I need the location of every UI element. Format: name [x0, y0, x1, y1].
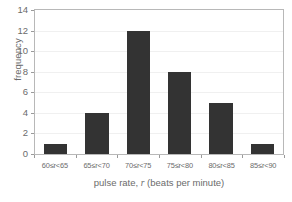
x-axis-tick-mark — [284, 155, 285, 158]
x-axis-title: pulse rate, r (beats per minute) — [34, 177, 284, 188]
x-axis-tick-label: 65≤r<70 — [76, 161, 118, 170]
y-axis-tick-label: 0 — [23, 149, 28, 159]
bar-slot — [159, 10, 200, 154]
bar-slot — [200, 10, 241, 154]
bar-slot — [118, 10, 159, 154]
x-axis-tick-label: 85≤r<90 — [242, 161, 284, 170]
plot-area — [34, 9, 284, 155]
x-axis-tick-mark — [242, 155, 243, 158]
x-axis-tick-labels: 60≤r<6565≤r<7070≤r<7575≤r<8080≤r<8585≤r<… — [34, 161, 284, 170]
y-axis-tick-label: 8 — [23, 67, 28, 77]
x-axis-tick-label: 60≤r<65 — [34, 161, 76, 170]
x-axis-tick-label: 80≤r<85 — [201, 161, 243, 170]
bar[interactable] — [127, 31, 151, 154]
x-axis-tick-label: 70≤r<75 — [117, 161, 159, 170]
y-axis-tick-label: 2 — [23, 129, 28, 139]
bar-slot — [35, 10, 76, 154]
bar-slot — [76, 10, 117, 154]
x-axis-title-prefix: pulse rate, — [94, 177, 141, 188]
x-axis-tick-label: 75≤r<80 — [159, 161, 201, 170]
y-axis-tick-label: 6 — [23, 88, 28, 98]
x-axis-tick-mark — [201, 155, 202, 158]
y-axis-tick-label: 10 — [17, 46, 28, 56]
x-axis-tick-mark — [159, 155, 160, 158]
y-axis-tick-label: 12 — [17, 26, 28, 36]
bar[interactable] — [85, 113, 109, 154]
bar[interactable] — [209, 103, 233, 154]
x-axis-tick-mark — [34, 155, 35, 158]
bar[interactable] — [44, 144, 68, 154]
y-axis-tick-label: 4 — [23, 108, 28, 118]
histogram-chart: frequency 02468101214 60≤r<6565≤r<7070≤r… — [0, 0, 292, 202]
x-axis-title-suffix: (beats per minute) — [144, 177, 224, 188]
y-axis-tick-label: 14 — [17, 5, 28, 15]
bars-layer — [35, 10, 283, 154]
bar[interactable] — [251, 144, 275, 154]
y-axis-tick-labels: 02468101214 — [8, 9, 32, 155]
bar-slot — [242, 10, 283, 154]
bar[interactable] — [168, 72, 192, 154]
x-axis-tick-mark — [117, 155, 118, 158]
x-axis-tick-mark — [76, 155, 77, 158]
x-axis-tick-marks — [34, 155, 284, 159]
